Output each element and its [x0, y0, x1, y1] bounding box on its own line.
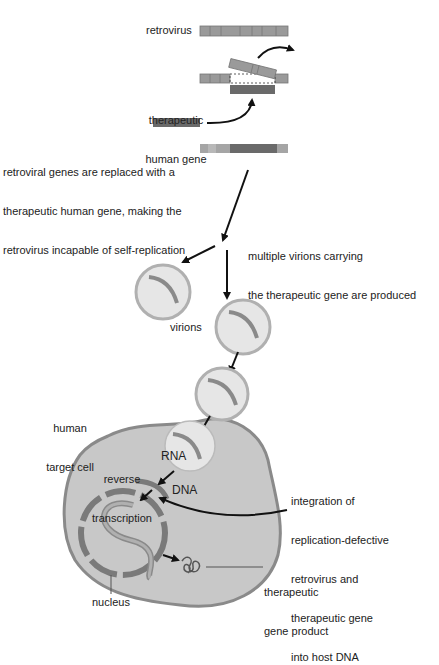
- production-arrow: [223, 170, 248, 240]
- product-line1: therapeutic: [264, 586, 328, 599]
- virion-production-description: multiple virions carrying the therapeuti…: [248, 224, 416, 315]
- retrovirus-genome-bar: [200, 26, 288, 36]
- virion-entering-cell: [165, 421, 215, 471]
- integration-line2: replication-defective: [291, 534, 389, 547]
- virions-label: virions: [170, 321, 202, 334]
- reverse-transcription-label: reverse transcription: [84, 447, 160, 538]
- replacement-line3: retrovirus incapable of self-replication: [3, 244, 185, 257]
- replacement-description: retroviral genes are replaced with a the…: [3, 140, 185, 270]
- retrovirus-label: retrovirus: [146, 24, 192, 37]
- virion-1: [136, 265, 190, 319]
- product-line2: gene product: [264, 625, 328, 638]
- integration-line1: integration of: [291, 495, 389, 508]
- target-cell-line1: human: [40, 422, 100, 435]
- production-line1: multiple virions carrying: [248, 250, 416, 263]
- dna-label: DNA: [172, 484, 197, 497]
- nucleus-label: nucleus: [92, 596, 130, 609]
- gene-splicing-step: [200, 47, 293, 94]
- replacement-line2: therapeutic human gene, making the: [3, 205, 185, 218]
- therapeutic-gene-line1: therapeutic: [136, 114, 216, 127]
- gene-product-label: therapeutic gene product: [264, 560, 328, 651]
- reverse-line2: transcription: [84, 512, 160, 525]
- replacement-line1: retroviral genes are replaced with a: [3, 166, 185, 179]
- virion-3: [196, 368, 248, 420]
- integration-line5: into host DNA: [291, 651, 389, 664]
- reverse-line1: reverse: [84, 473, 160, 486]
- production-line2: the therapeutic gene are produced: [248, 289, 416, 302]
- rna-label: RNA: [161, 450, 186, 463]
